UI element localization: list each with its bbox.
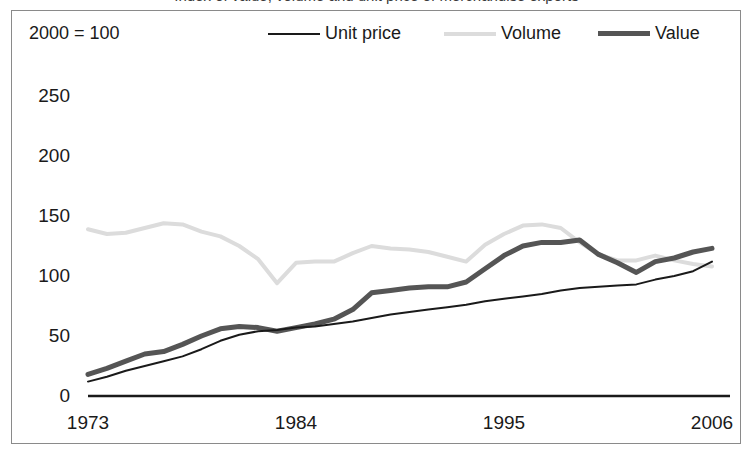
x-axis-tick-1995: 1995 bbox=[483, 412, 525, 434]
cut-off-title: Index of value, volume and unit price of… bbox=[0, 0, 753, 10]
y-axis-tick-100: 100 bbox=[12, 265, 70, 287]
plot-svg bbox=[12, 11, 742, 445]
series-line-volume bbox=[88, 223, 712, 283]
plot-area: 050100150200250 1973198419952006 bbox=[12, 11, 742, 445]
y-axis-tick-150: 150 bbox=[12, 205, 70, 227]
y-axis-tick-250: 250 bbox=[12, 85, 70, 107]
cut-off-title-text: Index of value, volume and unit price of… bbox=[0, 0, 753, 4]
chart-frame: 2000 = 100 Unit price Volume Value 05010… bbox=[11, 10, 741, 444]
y-axis-tick-50: 50 bbox=[12, 325, 70, 347]
x-axis-tick-2006: 2006 bbox=[691, 412, 733, 434]
x-axis-tick-1984: 1984 bbox=[275, 412, 317, 434]
series-line-unit-price bbox=[88, 262, 712, 382]
y-axis-tick-0: 0 bbox=[12, 385, 70, 407]
x-axis-tick-1973: 1973 bbox=[67, 412, 109, 434]
y-axis-tick-200: 200 bbox=[12, 145, 70, 167]
